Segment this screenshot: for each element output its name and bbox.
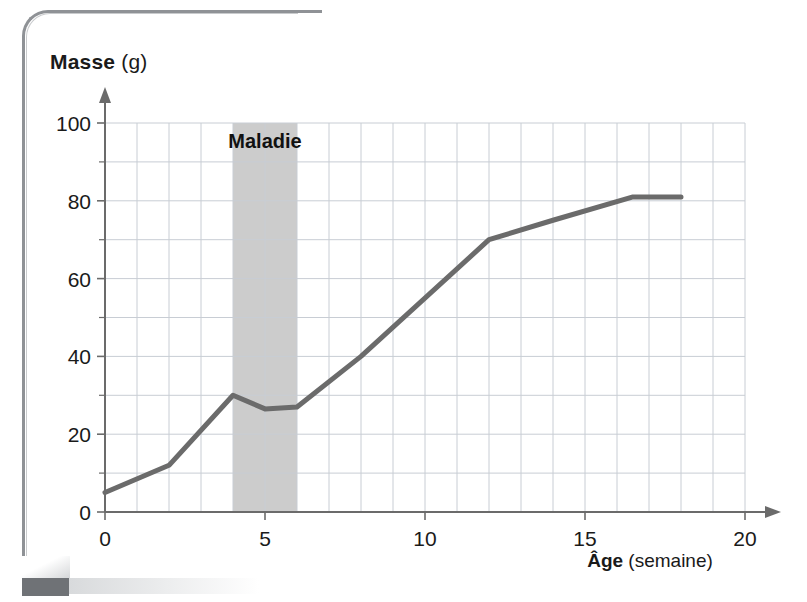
x-axis-arrow [765,506,781,518]
y-axis-title-light: (g) [121,50,147,73]
x-tick-label: 10 [395,528,455,549]
x-axis-title: Âge (semaine) [587,550,713,572]
gridlines [105,123,745,512]
y-tick-label: 40 [45,346,91,367]
x-tick-label: 0 [75,528,135,549]
y-tick-label: 60 [45,268,91,289]
y-axis-title: Masse (g) [50,50,148,74]
y-tick-label: 0 [45,502,91,523]
x-axis-title-strong: Âge [587,550,623,571]
y-tick-label: 20 [45,424,91,445]
y-axis-arrow [99,87,111,103]
mass-vs-age-line-chart: Masse (g) Âge (semaine) 020406080100 051… [0,0,807,602]
x-tick-label: 5 [235,528,295,549]
x-axis-title-light: (semaine) [628,550,712,571]
axes [97,87,781,520]
plot-canvas [0,0,807,602]
x-tick-label: 20 [715,528,775,549]
x-tick-label: 15 [555,528,615,549]
y-tick-label: 100 [45,113,91,134]
maladie-band-label: Maladie [228,130,301,153]
y-axis-title-strong: Masse [50,50,115,73]
y-tick-label: 80 [45,190,91,211]
